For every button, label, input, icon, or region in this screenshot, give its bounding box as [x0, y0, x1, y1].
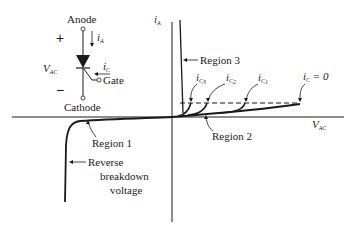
- label-ic2: iC2: [226, 71, 236, 85]
- scr-symbol: Anode Cathode Gate iA iC + VAC −: [43, 13, 124, 113]
- reverse-label-3: voltage: [110, 184, 142, 196]
- y-axis-label: iA: [154, 13, 161, 26]
- arrow-ic1: [246, 84, 258, 101]
- ia-label: iA: [97, 31, 104, 44]
- label-ic3: iC3: [196, 71, 206, 85]
- arrow-ic2: [208, 84, 225, 101]
- diode-triangle-icon: [76, 55, 90, 68]
- cathode-terminal: [81, 96, 85, 100]
- plus-sign: +: [56, 30, 64, 46]
- ic-label: iC: [103, 60, 111, 73]
- reverse-label-1: Reverse: [88, 156, 124, 168]
- region2-arrow: [206, 117, 213, 131]
- curve-ic3: [178, 103, 191, 116]
- label-ic0: iC = 0: [303, 70, 329, 83]
- arrowhead-icon: [206, 98, 210, 102]
- arrowhead-icon: [90, 43, 94, 47]
- arrowhead-icon: [189, 98, 193, 102]
- arrowhead-icon: [244, 98, 248, 102]
- gate-terminal: [97, 78, 101, 82]
- arrowhead-icon: [94, 72, 98, 76]
- region3-label: Region 3: [200, 54, 241, 66]
- region1-label: Region 1: [92, 137, 132, 149]
- arrowhead-icon: [298, 98, 302, 102]
- arrowhead-icon: [69, 160, 73, 164]
- anode-label: Anode: [67, 13, 96, 25]
- label-ic1: iC1: [258, 71, 268, 85]
- cathode-label: Cathode: [64, 101, 101, 113]
- x-axis-label: VAC: [312, 118, 327, 131]
- arrowhead-icon: [183, 58, 187, 62]
- gate-label: Gate: [103, 74, 124, 86]
- vac-label: VAC: [43, 62, 58, 75]
- region2-label: Region 2: [212, 130, 252, 142]
- scr-characteristic-diagram: iA VAC iC3 iC2 iC1 iC = 0 Region 3 Regio…: [0, 0, 351, 227]
- on-state-curve: [180, 20, 183, 113]
- region1-arrow: [88, 122, 96, 137]
- reverse-label-2: breakdown: [100, 170, 149, 182]
- minus-sign: −: [56, 82, 64, 98]
- anode-terminal: [81, 27, 85, 31]
